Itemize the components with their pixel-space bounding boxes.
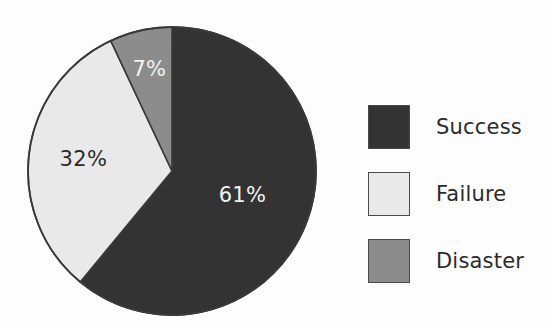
legend-label-failure: Failure	[436, 182, 507, 206]
legend-swatch-disaster	[368, 239, 410, 283]
legend-label-success: Success	[436, 115, 522, 139]
pie-label-failure: 32%	[60, 147, 108, 171]
pie-chart-figure: 61% 32% 7% Success Failure Disaster	[0, 0, 552, 326]
legend-item-success[interactable]: Success	[368, 104, 538, 150]
legend-swatch-success	[368, 105, 410, 149]
pie-label-success: 61%	[219, 183, 267, 207]
pie-label-disaster: 7%	[132, 57, 166, 81]
pie-chart-plot-area: 61% 32% 7%	[27, 26, 317, 316]
legend-item-failure[interactable]: Failure	[368, 171, 538, 217]
legend-swatch-failure	[368, 172, 410, 216]
pie-chart-svg: 61% 32% 7%	[27, 26, 317, 316]
legend-item-disaster[interactable]: Disaster	[368, 238, 538, 284]
legend-label-disaster: Disaster	[436, 249, 524, 273]
chart-legend: Success Failure Disaster	[368, 104, 538, 284]
